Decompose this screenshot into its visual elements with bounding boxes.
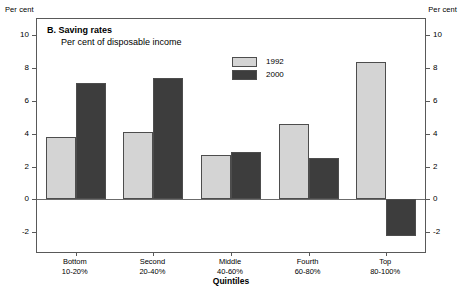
y-tick-mark-right [426, 232, 430, 233]
x-axis-title: Quintiles [0, 276, 462, 286]
bar-top-1992[interactable] [356, 62, 386, 200]
y-tick-label-left: 0 [25, 195, 29, 203]
x-category-label-second: Second20-40% [107, 257, 197, 276]
x-category-range: 20-40% [107, 267, 197, 277]
x-category-range: 40-60% [185, 267, 275, 277]
x-tick-mark [386, 252, 387, 256]
y-tick-label-left: 8 [25, 64, 29, 72]
plot-frame: B. Saving rates Per cent of disposable i… [36, 18, 426, 253]
x-tick-mark [76, 252, 77, 256]
y-tick-label-left: 4 [25, 130, 29, 138]
y-tick-mark-right [426, 68, 430, 69]
x-category-label-fourth: Fourth60-80% [263, 257, 353, 276]
y-tick-mark-left [32, 134, 36, 135]
x-category-label-top: Top80-100% [340, 257, 430, 276]
saving-rates-chart-figure: Per cent Per cent B. Saving rates Per ce… [0, 0, 462, 291]
bar-group-bottom [37, 19, 115, 252]
x-tick-mark [231, 252, 232, 256]
x-category-name: Fourth [297, 257, 319, 266]
plot-area [37, 19, 425, 252]
y-tick-mark-left [32, 167, 36, 168]
y-tick-label-left: -2 [22, 228, 29, 236]
y-tick-mark-left [32, 101, 36, 102]
bar-group-fourth [270, 19, 348, 252]
y-tick-label-right: 4 [433, 130, 437, 138]
bar-fourth-1992[interactable] [279, 124, 309, 199]
bar-bottom-1992[interactable] [46, 137, 76, 199]
x-category-name: Top [379, 257, 391, 266]
y-tick-label-right: 10 [433, 31, 442, 39]
bar-top-2000[interactable] [386, 199, 416, 235]
bar-group-top [347, 19, 425, 252]
y-tick-label-right: 2 [433, 163, 437, 171]
y-tick-label-right: 0 [433, 195, 437, 203]
y-tick-mark-right [426, 35, 430, 36]
bar-group-middle [192, 19, 270, 252]
x-category-label-middle: Middle40-60% [185, 257, 275, 276]
x-category-name: Bottom [63, 257, 87, 266]
y-tick-label-left: 10 [20, 31, 29, 39]
bar-group-second [115, 19, 193, 252]
y-tick-label-right: 6 [433, 97, 437, 105]
bar-middle-2000[interactable] [231, 152, 261, 200]
x-category-name: Middle [219, 257, 241, 266]
bar-middle-1992[interactable] [201, 155, 231, 199]
y-tick-label-left: 6 [25, 97, 29, 105]
x-category-range: 80-100% [340, 267, 430, 277]
x-category-range: 60-80% [263, 267, 353, 277]
y-tick-mark-right [426, 134, 430, 135]
bar-bottom-2000[interactable] [76, 83, 106, 200]
y-tick-label-left: 2 [25, 163, 29, 171]
y-tick-mark-left [32, 199, 36, 200]
x-category-range: 10-20% [30, 267, 120, 277]
left-axis-unit-label: Per cent [5, 5, 34, 14]
right-axis-unit-label: Per cent [428, 5, 457, 14]
x-category-label-bottom: Bottom10-20% [30, 257, 120, 276]
x-category-name: Second [140, 257, 165, 266]
y-tick-mark-left [32, 232, 36, 233]
y-tick-label-right: 8 [433, 64, 437, 72]
y-tick-mark-left [32, 68, 36, 69]
bar-second-1992[interactable] [123, 132, 153, 199]
x-tick-mark [153, 252, 154, 256]
x-tick-mark [309, 252, 310, 256]
bar-fourth-2000[interactable] [309, 158, 339, 200]
y-tick-label-right: -2 [433, 228, 440, 236]
bar-second-2000[interactable] [153, 78, 183, 199]
y-tick-mark-left [32, 35, 36, 36]
y-tick-mark-right [426, 167, 430, 168]
y-tick-mark-right [426, 101, 430, 102]
y-tick-mark-right [426, 199, 430, 200]
